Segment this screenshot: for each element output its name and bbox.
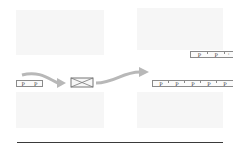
output-arrow-head [139, 67, 149, 77]
packet: P [17, 81, 30, 87]
output-upper-packet-stream: P P ' [190, 51, 233, 58]
output-arrow [96, 72, 140, 83]
horizontal-rule [17, 142, 223, 143]
packet: P [191, 52, 208, 58]
packet: P [185, 81, 201, 87]
packet: P [217, 81, 233, 87]
packet: P [201, 81, 217, 87]
packet: P [30, 81, 43, 87]
packet-fragment: ' [225, 52, 233, 58]
input-arrow-head [57, 78, 66, 88]
packet: P [208, 52, 225, 58]
flow-arrows [0, 0, 233, 146]
packet: P [153, 81, 169, 87]
input-packet-stream: P P [16, 80, 43, 87]
packet: P [169, 81, 185, 87]
output-lower-packet-stream: P P P P P [152, 80, 233, 87]
x-box-icon [71, 78, 93, 87]
